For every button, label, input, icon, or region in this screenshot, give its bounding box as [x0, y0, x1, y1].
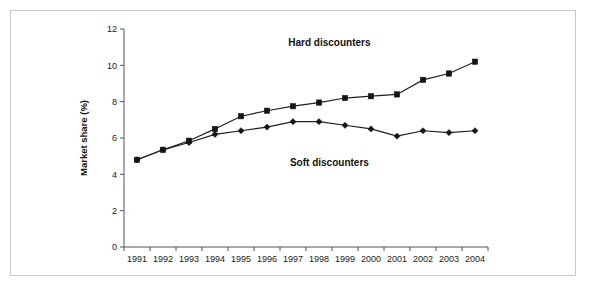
x-tick-label: 2001 — [387, 254, 407, 264]
x-tick-label: 2003 — [439, 254, 459, 264]
series-annotation-label: Soft discounters — [290, 157, 369, 168]
x-tick-label: 1997 — [283, 254, 303, 264]
x-tick-label: 1999 — [335, 254, 355, 264]
data-point-marker-diamond — [446, 129, 452, 135]
data-point-marker-diamond — [342, 122, 348, 128]
market-share-line-chart: 024681012 199119921993199419951996199719… — [11, 11, 575, 275]
y-tick-label: 8 — [112, 97, 117, 107]
data-point-marker-diamond — [316, 119, 322, 125]
y-tick-labels: 024681012 — [107, 24, 117, 252]
data-point-marker-square — [446, 71, 451, 76]
y-axis-title: Market share (%) — [78, 100, 89, 176]
x-tick-label: 1993 — [179, 254, 199, 264]
y-tick-label: 0 — [112, 242, 117, 252]
x-tick-label: 1995 — [231, 254, 251, 264]
y-tick-label: 10 — [107, 61, 117, 71]
y-tick-label: 4 — [112, 170, 117, 180]
data-point-marker-square — [420, 77, 425, 82]
series-annotations: Hard discountersSoft discounters — [288, 37, 371, 168]
x-tick-label: 1994 — [205, 254, 225, 264]
y-tick-label: 6 — [112, 133, 117, 143]
data-point-marker-square — [264, 108, 269, 113]
data-point-marker-diamond — [472, 128, 478, 134]
data-point-marker-diamond — [420, 128, 426, 134]
data-point-marker-diamond — [212, 131, 218, 137]
data-point-marker-diamond — [238, 128, 244, 134]
data-point-marker-square — [316, 100, 321, 105]
data-point-marker-square — [368, 94, 373, 99]
axes-layer — [120, 29, 488, 251]
x-tick-label: 1998 — [309, 254, 329, 264]
series-annotation-label: Hard discounters — [288, 37, 371, 48]
y-tick-label: 2 — [112, 206, 117, 216]
data-point-marker-diamond — [264, 124, 270, 130]
x-tick-label: 2004 — [465, 254, 485, 264]
x-tick-labels: 1991199219931994199519961997199819992000… — [127, 254, 485, 264]
series-line-hard-discounters — [137, 62, 475, 160]
figure-canvas: 024681012 199119921993199419951996199719… — [0, 0, 594, 289]
x-tick-label: 1992 — [153, 254, 173, 264]
data-point-marker-square — [212, 126, 217, 131]
y-axis-title-text: Market share (%) — [78, 100, 89, 176]
data-point-marker-square — [290, 104, 295, 109]
data-point-marker-diamond — [368, 126, 374, 132]
x-tick-label: 2000 — [361, 254, 381, 264]
data-point-marker-square — [472, 59, 477, 64]
data-point-marker-square — [238, 114, 243, 119]
series-layer — [134, 59, 478, 163]
data-point-marker-diamond — [394, 133, 400, 139]
x-tick-label: 2002 — [413, 254, 433, 264]
x-tick-label: 1991 — [127, 254, 147, 264]
data-point-marker-diamond — [290, 119, 296, 125]
x-tick-label: 1996 — [257, 254, 277, 264]
data-point-marker-square — [342, 95, 347, 100]
figure-frame: 024681012 199119921993199419951996199719… — [10, 10, 576, 276]
y-tick-label: 12 — [107, 24, 117, 34]
data-point-marker-square — [394, 92, 399, 97]
